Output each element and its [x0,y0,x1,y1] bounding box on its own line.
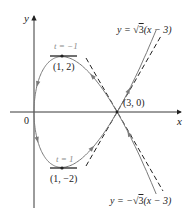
param-label-bottom: t = 1 [56,154,74,164]
curve-direction-arrow-icon [35,136,41,143]
tangent-label-positive: y = √3(x − 3) [116,24,172,36]
y-axis-label: y [23,12,29,24]
origin-label: 0 [24,115,29,126]
point-dot-bottom [60,166,63,169]
x-axis-label: x [176,115,182,127]
tschirnhausen-cubic-diagram: y x 0 t = −1 (1, 2) t = 1 (1, −2) (3, 0)… [0,0,193,218]
point-dot-top [60,54,63,57]
point-dot-crossing [116,111,119,114]
point-label-top: (1, 2) [53,61,75,73]
point-label-bottom: (1, −2) [50,173,77,185]
tangent-label-negative: y = −√3(x − 3) [109,195,172,207]
param-label-top: t = −1 [54,41,78,51]
point-label-crossing: (3, 0) [123,97,145,109]
curve-direction-arrow-icon [35,81,41,88]
